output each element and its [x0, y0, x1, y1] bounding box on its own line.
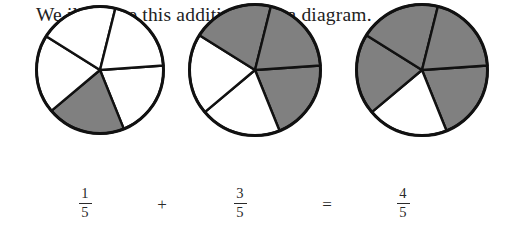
second-addend-circle-graphic	[184, 0, 326, 141]
equals-operator: =	[315, 195, 339, 215]
plus-operator: +	[150, 195, 174, 215]
pie-diagram-row	[0, 0, 530, 195]
first-fraction-numerator: 1	[68, 186, 102, 201]
second-fraction-denominator: 5	[223, 205, 257, 220]
second-fraction-numerator: 3	[223, 186, 257, 201]
result-fraction-denominator: 5	[386, 205, 420, 220]
second-addend-circle	[184, 0, 326, 141]
first-addend-circle	[31, 1, 169, 139]
first-fraction: 1 5	[68, 186, 102, 220]
result-fraction-numerator: 4	[386, 186, 420, 201]
sum-circle	[351, 0, 493, 141]
first-fraction-denominator: 5	[68, 205, 102, 220]
second-fraction: 3 5	[223, 186, 257, 220]
diagram-page: We illustrate this addition with a diagr…	[0, 0, 530, 232]
first-addend-circle-graphic	[31, 1, 169, 139]
sum-circle-graphic	[351, 0, 493, 141]
equation-row: 1 5 + 3 5 = 4 5	[0, 186, 530, 232]
result-fraction: 4 5	[386, 186, 420, 220]
